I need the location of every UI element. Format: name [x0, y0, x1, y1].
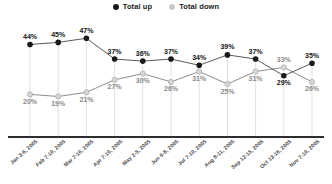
- plot-svg: 20%19%21%27%30%26%31%25%31%33%26% 44%45%…: [0, 18, 332, 136]
- legend-label-total-up: Total up: [123, 3, 152, 11]
- value-label-total-up: 34%: [192, 54, 207, 61]
- x-axis-tick-label: Apr 7-10, 2005: [92, 139, 123, 168]
- value-label-total-down: 30%: [136, 77, 151, 84]
- legend-item-total-down[interactable]: Total down: [169, 3, 219, 11]
- value-label-total-down: 31%: [249, 75, 264, 82]
- plot-area: 20%19%21%27%30%26%31%25%31%33%26% 44%45%…: [0, 18, 332, 136]
- x-axis-tick-labels: Jan 3-6, 2005Feb 7-10, 2005Mar 7-10, 200…: [0, 139, 332, 184]
- value-label-total-up: 37%: [108, 48, 123, 55]
- x-axis-tick-label: Nov 7-10, 2005: [289, 139, 321, 169]
- filled-circle-icon: [113, 4, 119, 10]
- x-axis-tick-label: Jun 6-8, 2005: [150, 139, 179, 166]
- x-axis-tick-label: May 2-5, 2005: [121, 139, 151, 167]
- value-label-total-down: 31%: [192, 75, 207, 82]
- value-label-total-up: 36%: [136, 50, 151, 57]
- value-label-total-up: 45%: [51, 31, 66, 38]
- value-label-total-down: 26%: [305, 85, 320, 92]
- value-label-total-down: 21%: [79, 96, 94, 103]
- x-axis-tick-label: Mar 7-10, 2005: [63, 139, 95, 168]
- value-label-total-down: 20%: [23, 98, 38, 105]
- value-label-total-down: 26%: [164, 85, 179, 92]
- value-label-total-up: 37%: [249, 48, 264, 55]
- legend-item-total-up[interactable]: Total up: [113, 3, 152, 11]
- value-label-total-down: 19%: [51, 100, 66, 107]
- chart-legend: Total up Total down: [0, 3, 332, 11]
- hollow-circle-icon: [169, 4, 175, 10]
- value-label-total-down: 27%: [108, 83, 123, 90]
- x-axis-tick-label: Oct 13-16, 2005: [259, 139, 292, 170]
- x-axis-line: [8, 136, 324, 138]
- value-label-total-up: 37%: [164, 48, 179, 55]
- value-label-total-up: 35%: [305, 52, 320, 59]
- line-chart: Total up Total down 20%19%21%27%30%26%31…: [0, 0, 332, 184]
- value-label-total-up: 47%: [79, 27, 94, 34]
- value-label-total-up: 39%: [220, 43, 235, 50]
- value-label-total-up: 44%: [23, 33, 38, 40]
- value-label-total-down: 25%: [220, 88, 235, 95]
- value-label-total-up: 29%: [277, 79, 292, 86]
- value-label-total-down: 33%: [277, 56, 292, 63]
- legend-label-total-down: Total down: [179, 3, 219, 11]
